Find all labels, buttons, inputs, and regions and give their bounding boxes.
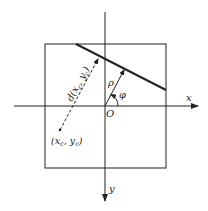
rho-vector (105, 70, 124, 106)
point-label: (xc, yc) (51, 135, 83, 148)
origin-label: O (106, 108, 114, 119)
distance-label: d(xc, yc) (64, 64, 93, 104)
phi-label: φ (119, 89, 126, 100)
y-axis-label: y (108, 183, 115, 194)
center-point (59, 129, 62, 132)
rho-label: ρ (107, 77, 114, 88)
detected-line (76, 44, 166, 90)
hough-line-diagram: x y O ρ φ (xc, yc) d(xc, yc) (0, 0, 208, 211)
x-axis-label: x (186, 92, 192, 103)
phi-angle-arc (111, 95, 118, 107)
